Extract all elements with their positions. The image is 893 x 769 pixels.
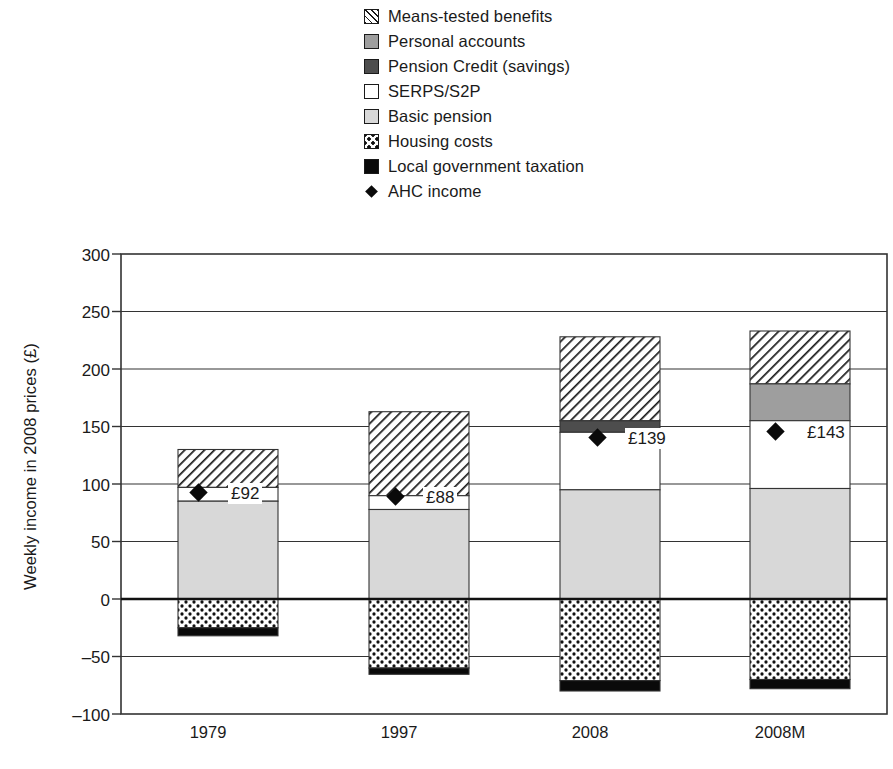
y-tick-neg50: –50 (54, 649, 110, 666)
means-tested-benefits-swatch-icon (364, 9, 379, 24)
legend-label: SERPS/S2P (388, 83, 481, 100)
legend-item-local-government-taxation: Local government taxation (364, 154, 784, 179)
bar-segment-means-tested-benefits (560, 337, 660, 421)
legend-label: Basic pension (388, 108, 492, 125)
legend-label: Housing costs (388, 133, 493, 150)
ahc-label-1979: £92 (228, 483, 262, 504)
bar-segment-housing-costs (178, 599, 278, 628)
bar-segment-basic-pension (560, 490, 660, 599)
bar-segment-personal-accounts (750, 384, 850, 421)
legend-label: Personal accounts (388, 33, 525, 50)
x-tick-1979: 1979 (148, 724, 268, 741)
x-tick-1997: 1997 (339, 724, 459, 741)
ahc-label-2008m: £143 (804, 422, 848, 443)
y-tick-0: 0 (54, 592, 110, 609)
legend-item-serps-s2p: SERPS/S2P (364, 79, 784, 104)
legend-item-ahc-income: AHC income (364, 179, 784, 204)
y-axis-tick-labels: 300 250 200 150 100 50 0 –50 –100 (54, 0, 110, 769)
serps-s2p-swatch-icon (364, 84, 379, 99)
y-tick-300: 300 (54, 247, 110, 264)
ahc-income-diamond-icon (364, 187, 379, 196)
x-tick-2008m: 2008M (720, 724, 840, 741)
bar-segment-means-tested-benefits (750, 331, 850, 384)
legend-item-basic-pension: Basic pension (364, 104, 784, 129)
bar-segment-housing-costs (369, 599, 469, 668)
y-tick-50: 50 (54, 534, 110, 551)
bar-segment-means-tested-benefits (178, 450, 278, 488)
ahc-marker-1997 (386, 487, 404, 505)
pension-credit-savings-swatch-icon (364, 59, 379, 74)
chart-legend: Means-tested benefits Personal accounts … (364, 4, 784, 204)
legend-item-personal-accounts: Personal accounts (364, 29, 784, 54)
y-tick-marks (112, 254, 121, 714)
bar-segment-housing-costs (750, 599, 850, 680)
bar-segment-local-government-taxation (369, 668, 469, 674)
ahc-marker-1979 (189, 483, 207, 501)
personal-accounts-swatch-icon (364, 34, 379, 49)
housing-costs-swatch-icon (364, 134, 379, 149)
ahc-marker-2008m (766, 422, 784, 440)
bar-segment-local-government-taxation (560, 681, 660, 691)
bar-segment-local-government-taxation (750, 680, 850, 689)
bar-group-1979 (178, 450, 278, 636)
bar-segment-housing-costs (560, 599, 660, 681)
legend-label: Local government taxation (388, 158, 584, 175)
bar-group-2008 (560, 337, 660, 691)
bar-segment-basic-pension (369, 510, 469, 600)
legend-item-pension-credit-savings: Pension Credit (savings) (364, 54, 784, 79)
legend-item-means-tested-benefits: Means-tested benefits (364, 4, 784, 29)
legend-label: Means-tested benefits (388, 8, 552, 25)
ahc-label-2008: £139 (625, 428, 669, 449)
y-tick-150: 150 (54, 419, 110, 436)
bar-segment-means-tested-benefits (369, 412, 469, 496)
bar-segment-local-government-taxation (178, 628, 278, 636)
y-tick-neg100: –100 (54, 707, 110, 724)
local-government-taxation-swatch-icon (364, 159, 379, 174)
bar-segment-basic-pension (750, 489, 850, 600)
basic-pension-swatch-icon (364, 109, 379, 124)
y-tick-250: 250 (54, 304, 110, 321)
legend-label: Pension Credit (savings) (388, 58, 570, 75)
y-tick-100: 100 (54, 477, 110, 494)
legend-label: AHC income (388, 183, 482, 200)
bar-group-2008m (750, 331, 850, 689)
bar-group-1997 (369, 412, 469, 675)
bar-segment-basic-pension (178, 501, 278, 599)
y-tick-200: 200 (54, 362, 110, 379)
x-tick-2008: 2008 (530, 724, 650, 741)
ahc-label-1997: £88 (423, 487, 457, 508)
legend-item-housing-costs: Housing costs (364, 129, 784, 154)
ahc-marker-2008 (588, 428, 606, 446)
y-axis-title: Weekly income in 2008 prices (£) (21, 287, 40, 647)
